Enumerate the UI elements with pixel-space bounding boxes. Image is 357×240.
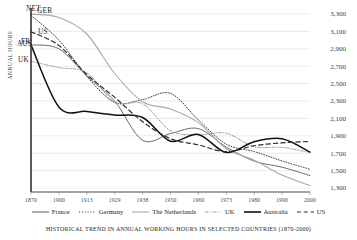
svg-text:1900: 1900 [53, 197, 65, 203]
y-axis-tick-labels: 1,3001,5001,7001,9002,1002,3002,5002,700… [330, 10, 346, 192]
svg-text:1950: 1950 [165, 197, 177, 203]
legend-item-us[interactable]: US [297, 208, 325, 215]
legend-swatch-icon [79, 209, 96, 215]
legend-item-germany[interactable]: Germany [79, 208, 124, 215]
series-tag-aus: AUS [17, 40, 32, 48]
legend-swatch-icon [32, 209, 49, 215]
svg-text:2,900: 2,900 [330, 45, 346, 53]
svg-text:1870: 1870 [25, 197, 37, 203]
series-curves [31, 14, 310, 186]
x-axis-tick-labels: 1870190019131929193819501960197319801990… [25, 197, 316, 203]
chart-caption: Historical trend in annual working hours… [0, 226, 357, 232]
series-tag-uk: UK [18, 56, 29, 64]
svg-text:1960: 1960 [192, 197, 204, 203]
legend-swatch-icon [244, 209, 261, 215]
legend-label: US [317, 208, 325, 215]
gridlines [31, 14, 310, 188]
series-tag-us: US [38, 28, 48, 36]
legend-item-australia[interactable]: Australia [244, 208, 288, 215]
series-line-the-netherlands [31, 14, 310, 186]
chart-legend: FranceGermanyThe NetherlandsUKAustraliaU… [0, 208, 357, 215]
svg-text:1938: 1938 [137, 197, 149, 203]
series-line-france [31, 45, 310, 176]
legend-label: France [52, 208, 70, 215]
legend-swatch-icon [297, 209, 314, 215]
svg-text:2,300: 2,300 [330, 97, 346, 105]
svg-text:1,500: 1,500 [330, 167, 346, 175]
legend-item-france[interactable]: France [32, 208, 70, 215]
svg-text:2,700: 2,700 [330, 63, 346, 71]
legend-label: Australia [264, 208, 288, 215]
svg-text:2000: 2000 [304, 197, 316, 203]
series-line-germany [31, 15, 310, 169]
legend-swatch-icon [205, 209, 222, 215]
svg-text:2,100: 2,100 [330, 115, 346, 123]
svg-text:1,900: 1,900 [330, 132, 346, 140]
svg-text:1929: 1929 [109, 197, 121, 203]
svg-text:1973: 1973 [220, 197, 232, 203]
svg-text:3,100: 3,100 [330, 28, 346, 36]
svg-text:2,500: 2,500 [330, 80, 346, 88]
svg-text:1,700: 1,700 [330, 150, 346, 158]
legend-label: UK [225, 208, 235, 215]
legend-label: The Netherlands [152, 208, 196, 215]
svg-text:1,300: 1,300 [330, 184, 346, 192]
legend-item-the-netherlands[interactable]: The Netherlands [132, 208, 196, 215]
svg-text:1980: 1980 [248, 197, 260, 203]
svg-text:3,300: 3,300 [330, 10, 346, 18]
legend-label: Germany [99, 208, 124, 215]
legend-swatch-icon [132, 209, 149, 215]
chart-container: Annual hours 1,3001,5001,7001,9002,1002,… [0, 0, 357, 240]
line-chart-plot: 1,3001,5001,7001,9002,1002,3002,5002,700… [0, 0, 357, 206]
svg-text:1990: 1990 [276, 197, 288, 203]
series-tag-net: NET [26, 5, 41, 13]
legend-item-uk[interactable]: UK [205, 208, 235, 215]
svg-text:1913: 1913 [81, 197, 93, 203]
